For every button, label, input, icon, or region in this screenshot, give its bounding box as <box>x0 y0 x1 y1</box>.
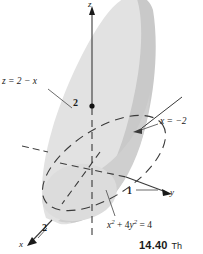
axis-x-label: x <box>19 240 23 249</box>
cylinder-equation-label: x2 + 4y2 = 4 <box>107 219 152 231</box>
figure-drawing <box>0 0 203 254</box>
plane-x-equation-label: x = −2 <box>160 117 187 127</box>
figure-caption-number: 14.40 <box>139 239 168 251</box>
plane-z-equation-label: z = 2 − x <box>2 77 37 87</box>
cylinder-eq-rhs: 4 <box>147 220 152 230</box>
axis-x-tick-label-2: 2 <box>42 223 47 233</box>
figure-container: z y x 2 1 2 z = 2 − x x = −2 x2 + 4y2 = … <box>0 0 203 254</box>
solid-body <box>42 0 156 224</box>
axis-y-tick-label-1: 1 <box>127 186 132 196</box>
axis-x-arrowhead <box>27 237 37 246</box>
axis-z-tick-dot <box>89 103 94 108</box>
axis-z-tick-label-2: 2 <box>73 98 78 108</box>
cylinder-eq-equals: = <box>137 220 147 230</box>
axis-y-negative-dashed <box>22 146 48 152</box>
axis-z-label: z <box>88 0 92 9</box>
axis-y-label: y <box>170 188 174 197</box>
figure-caption-text: Th <box>172 241 183 251</box>
cylinder-eq-plus: + <box>115 220 125 230</box>
figure-caption: 14.40Th <box>139 235 182 253</box>
